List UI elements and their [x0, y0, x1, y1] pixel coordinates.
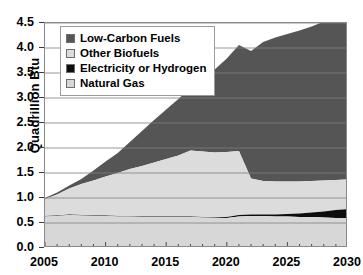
legend-item-label: Natural Gas: [80, 78, 145, 90]
x-tick-label: 2005: [30, 255, 58, 269]
legend-item-label: Low-Carbon Fuels: [80, 33, 180, 45]
x-tick-label: 2020: [212, 255, 240, 269]
legend-item-label: Electricity or Hydrogen: [80, 63, 207, 75]
legend-swatch-natural-gas: [66, 79, 75, 88]
area-series-natural-gas: [45, 215, 347, 247]
x-tick-label: 2010: [91, 255, 119, 269]
x-tick-label: 2025: [272, 255, 300, 269]
area-chart: Quadrillion Btu 0.00.51.01.52.02.53.03.5…: [0, 0, 363, 275]
legend-swatch-low-carbon-fuels: [66, 34, 75, 43]
legend-swatch-electricity-or-hydrogen: [66, 64, 75, 73]
chart-legend: Low-Carbon FuelsOther BiofuelsElectricit…: [60, 26, 215, 96]
x-tick-label: 2030: [333, 255, 361, 269]
legend-swatch-other-biofuels: [66, 49, 75, 58]
legend-item-label: Other Biofuels: [80, 48, 159, 60]
legend-item[interactable]: Natural Gas: [66, 76, 207, 91]
x-tick-label: 2015: [151, 255, 179, 269]
legend-item[interactable]: Electricity or Hydrogen: [66, 61, 207, 76]
legend-item[interactable]: Other Biofuels: [66, 46, 207, 61]
legend-item[interactable]: Low-Carbon Fuels: [66, 31, 207, 46]
